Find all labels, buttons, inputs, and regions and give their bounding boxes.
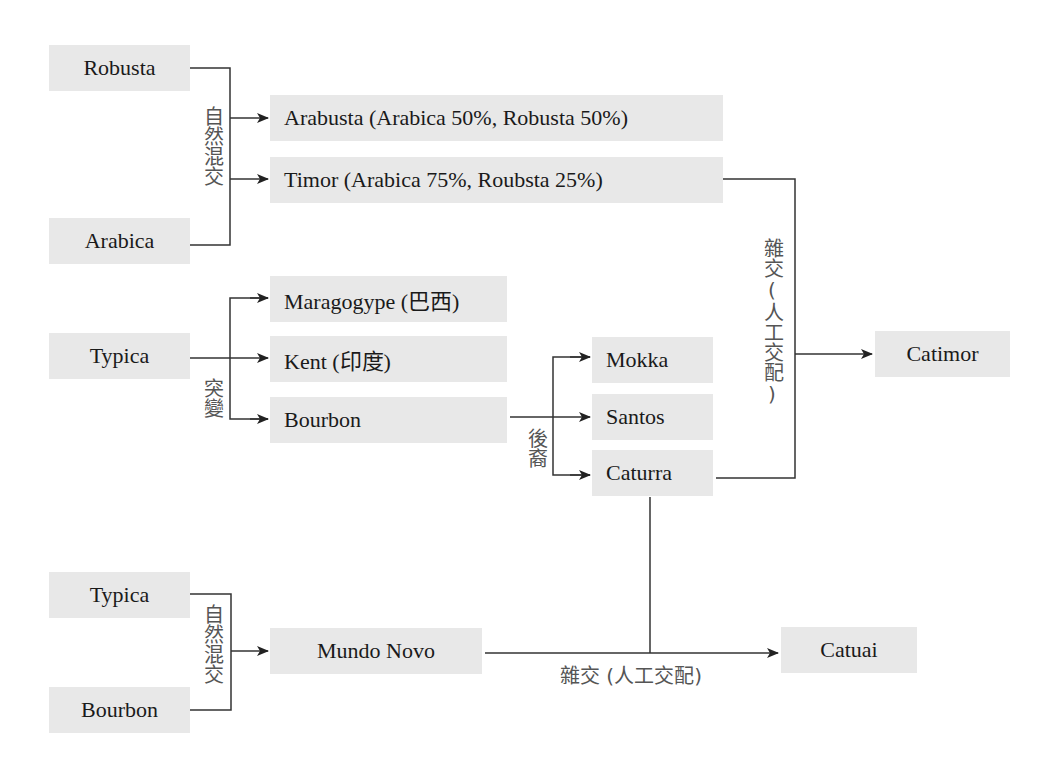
node-kent: Kent (印度) bbox=[270, 336, 507, 382]
label-artificial-cross-horizontal: 雜交 (人工交配) bbox=[560, 664, 750, 688]
node-caturra: Caturra bbox=[592, 450, 713, 496]
label-descendant: 後裔 bbox=[520, 428, 548, 468]
node-bourbon-1: Bourbon bbox=[270, 397, 507, 443]
node-maragogype: Maragogype (巴西) bbox=[270, 276, 507, 322]
label-natural-cross-bottom: 自然混交 bbox=[196, 604, 224, 684]
label-natural-cross-top: 自然混交 bbox=[196, 106, 224, 186]
label-artificial-cross-vertical: 雜交(人工交配) bbox=[756, 238, 784, 406]
label-mutation: 突變 bbox=[196, 378, 224, 418]
node-robusta: Robusta bbox=[49, 45, 190, 91]
node-santos: Santos bbox=[592, 394, 713, 440]
node-timor: Timor (Arabica 75%, Roubsta 25%) bbox=[270, 157, 723, 203]
node-typica-2: Typica bbox=[49, 572, 190, 618]
node-arabusta: Arabusta (Arabica 50%, Robusta 50%) bbox=[270, 95, 723, 141]
bracket-descendant bbox=[553, 357, 590, 475]
node-mokka: Mokka bbox=[592, 337, 713, 383]
node-bourbon-2: Bourbon bbox=[49, 687, 190, 733]
node-arabica: Arabica bbox=[49, 218, 190, 264]
node-catimor: Catimor bbox=[875, 331, 1010, 377]
node-mundo-novo: Mundo Novo bbox=[270, 628, 482, 674]
node-catuai: Catuai bbox=[781, 627, 917, 673]
node-typica-1: Typica bbox=[49, 333, 190, 379]
